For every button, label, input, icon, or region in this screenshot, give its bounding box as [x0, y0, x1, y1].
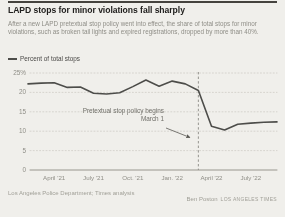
byline: Ben PostonLOS ANGELES TIMES [187, 196, 277, 202]
event-annotation: Pretextual stop policy begins March 1 [83, 107, 164, 122]
x-axis-tick-label: July '22 [240, 174, 261, 181]
source-note: Los Angeles Police Department; Times ana… [8, 190, 134, 196]
y-axis-tick-label: 20 [0, 88, 26, 95]
annotation-arrow-icon [166, 128, 190, 138]
y-axis-tick-label: 5 [0, 147, 26, 154]
data-line [28, 80, 277, 130]
y-axis-tick-label: 10 [0, 127, 26, 134]
x-axis-tick-label: Jan. '22 [161, 174, 182, 181]
y-axis-tick-label: 25% [0, 69, 26, 76]
event-annotation-line2: March 1 [83, 115, 164, 123]
y-axis-tick-label: 15 [0, 108, 26, 115]
chart-card: LAPD stops for minor violations fall sha… [0, 0, 285, 217]
x-axis-tick-label: July '21 [83, 174, 104, 181]
x-axis-tick-label: April '22 [200, 174, 222, 181]
y-axis-tick-label: 0 [0, 166, 26, 173]
byline-name: Ben Poston [187, 196, 218, 202]
byline-org: LOS ANGELES TIMES [221, 196, 277, 202]
event-annotation-line1: Pretextual stop policy begins [83, 107, 164, 115]
x-axis-tick-label: Oct. '21 [122, 174, 143, 181]
x-axis-tick-label: April '21 [43, 174, 65, 181]
percent-of-total-stops-line [28, 80, 277, 130]
